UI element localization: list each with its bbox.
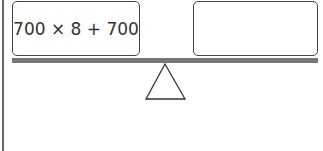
fulcrum-triangle-icon [0,0,323,151]
